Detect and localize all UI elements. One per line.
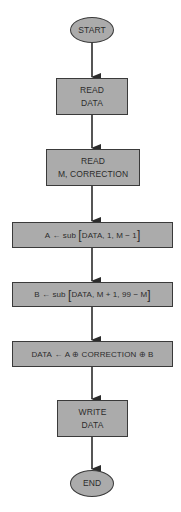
close-bracket: ] xyxy=(137,230,140,240)
left-arrow-icon: ← xyxy=(54,348,62,361)
assign-a-fn: sub xyxy=(63,229,76,242)
assign-b-lhs: B xyxy=(34,288,39,301)
left-arrow-icon: ← xyxy=(42,288,50,301)
read-m-line-1: READ xyxy=(81,155,105,168)
assign-a-args: DATA, 1, M − 1 xyxy=(82,229,137,242)
write-data-line-1: WRITE xyxy=(79,406,107,419)
end-node: END xyxy=(70,470,114,497)
start-node: START xyxy=(70,17,114,43)
flowchart: START READ DATA READ M, CORRECTION A ← s… xyxy=(0,0,181,512)
assign-b-args: DATA, M + 1, 99 − M xyxy=(71,288,147,301)
read-data-node: READ DATA xyxy=(56,78,128,115)
read-m-line-2: M, CORRECTION xyxy=(58,168,128,181)
start-label: START xyxy=(78,24,106,37)
left-arrow-icon: ← xyxy=(52,229,60,242)
read-data-line-2: DATA xyxy=(81,97,103,110)
assign-b-fn: sub xyxy=(52,288,65,301)
assign-data-node: DATA ← A ⊕ CORRECTION ⊕ B xyxy=(12,341,173,367)
assign-b-node: B ← sub [DATA, M + 1, 99 − M] xyxy=(12,282,173,307)
assign-a-lhs: A xyxy=(45,229,50,242)
end-label: END xyxy=(83,477,101,490)
assign-a-node: A ← sub [DATA, 1, M − 1] xyxy=(12,222,173,248)
assign-data-rhs: A ⊕ CORRECTION ⊕ B xyxy=(65,348,154,361)
read-m-correction-node: READ M, CORRECTION xyxy=(46,149,140,186)
write-data-node: WRITE DATA xyxy=(57,400,128,437)
write-data-line-2: DATA xyxy=(82,419,104,432)
read-data-line-1: READ xyxy=(80,84,104,97)
assign-data-lhs: DATA xyxy=(31,348,52,361)
close-bracket: ] xyxy=(147,290,150,300)
